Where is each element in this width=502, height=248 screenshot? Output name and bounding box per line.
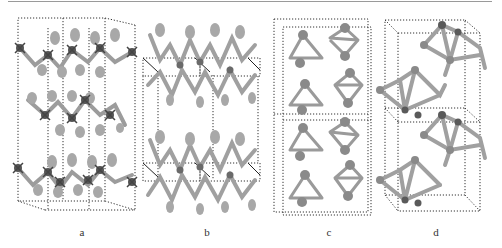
panel-b-structure [143, 23, 260, 215]
panel-label-b: b [197, 226, 217, 238]
panel-label-d: d [426, 226, 446, 238]
structures-canvas [0, 0, 502, 248]
panel-d-structure [376, 20, 485, 211]
panel-label-a: a [72, 226, 92, 238]
panel-c-structure [274, 19, 371, 215]
panel-a-structure [13, 18, 137, 210]
crystal-structure-figure: a b c d [0, 0, 502, 248]
panel-label-c: c [319, 226, 339, 238]
